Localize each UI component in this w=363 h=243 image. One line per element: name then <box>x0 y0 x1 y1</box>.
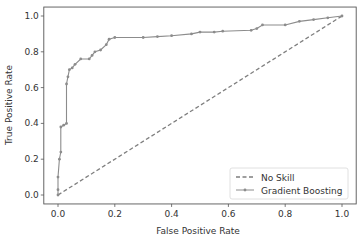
x-tick-label: 0.4 <box>164 209 179 219</box>
gradient-boosting-marker <box>79 58 82 61</box>
gradient-boosting-marker <box>221 30 224 33</box>
roc-chart: 0.00.20.40.60.81.0 0.00.20.40.60.81.0 Fa… <box>0 0 363 243</box>
gradient-boosting-marker <box>65 83 68 86</box>
x-axis-ticks: 0.00.20.40.60.81.0 <box>51 204 350 219</box>
legend-no-skill-label: No Skill <box>261 173 295 183</box>
gradient-boosting-marker <box>105 43 108 46</box>
y-tick-label: 0.2 <box>24 154 38 164</box>
gradient-boosting-marker <box>71 67 74 70</box>
gradient-boosting-marker <box>113 36 116 39</box>
y-tick-label: 0.8 <box>24 47 39 57</box>
gradient-boosting-marker <box>108 38 111 41</box>
gradient-boosting-marker <box>312 18 315 21</box>
gradient-boosting-marker <box>68 68 71 71</box>
x-axis-label: False Positive Rate <box>156 226 240 236</box>
gradient-boosting-marker <box>250 29 253 32</box>
gradient-boosting-marker <box>67 75 70 78</box>
x-tick-label: 0.8 <box>278 209 293 219</box>
y-axis-label: True Positive Rate <box>4 64 14 146</box>
y-tick-label: 0.6 <box>24 83 39 93</box>
legend-gb-label: Gradient Boosting <box>261 186 342 196</box>
gradient-boosting-marker <box>94 50 97 53</box>
gradient-boosting-marker <box>65 122 68 125</box>
gradient-boosting-marker <box>142 36 145 39</box>
gradient-boosting-marker <box>298 20 301 23</box>
x-tick-label: 0.0 <box>51 209 66 219</box>
y-tick-label: 0.4 <box>24 118 39 128</box>
gradient-boosting-marker <box>213 31 216 34</box>
gradient-boosting-marker <box>57 188 60 191</box>
gradient-boosting-marker <box>261 24 264 27</box>
gradient-boosting-marker <box>326 16 329 19</box>
x-tick-label: 0.2 <box>108 209 122 219</box>
gradient-boosting-marker <box>170 34 173 37</box>
gradient-boosting-marker <box>57 176 60 179</box>
gradient-boosting-marker <box>99 49 102 52</box>
x-tick-label: 1.0 <box>335 209 350 219</box>
gradient-boosting-marker <box>59 151 62 154</box>
y-tick-label: 1.0 <box>24 11 39 21</box>
gradient-boosting-marker <box>58 158 61 161</box>
gradient-boosting-marker <box>59 126 62 129</box>
gradient-boosting-marker <box>199 31 202 34</box>
gradient-boosting-marker <box>190 33 193 36</box>
gradient-boosting-marker <box>284 24 287 27</box>
gradient-boosting-marker <box>91 54 94 57</box>
gradient-boosting-marker <box>57 194 60 197</box>
y-axis-ticks: 0.00.20.40.60.81.0 <box>24 11 43 200</box>
x-tick-label: 0.6 <box>221 209 236 219</box>
gradient-boosting-marker <box>88 58 91 61</box>
legend-gb-marker <box>244 189 247 192</box>
gradient-boosting-marker <box>341 15 344 18</box>
legend: No Skill Gradient Boosting <box>230 168 348 199</box>
gradient-boosting-marker <box>62 124 65 127</box>
gradient-boosting-marker <box>156 35 159 38</box>
y-tick-label: 0.0 <box>24 190 39 200</box>
gradient-boosting-marker <box>255 27 258 30</box>
gradient-boosting-marker <box>74 63 77 66</box>
